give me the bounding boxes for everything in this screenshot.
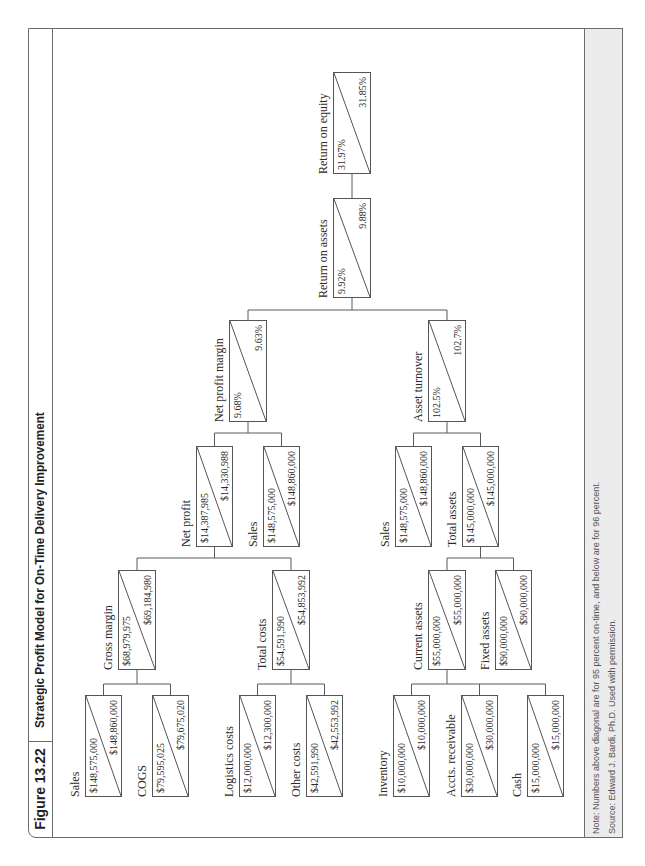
node-label-other-costs: Other costs [289,743,303,797]
value-96-percent: $148,860,000 [108,700,119,755]
node-label-inventory: Inventory [376,750,390,797]
value-95-percent: 9.68% [232,392,243,418]
value-96-percent: $55,000,000 [452,575,463,625]
footer-source: Source: Edward J. Bardi, Ph.D. Used with… [607,619,618,834]
node-label-return-on-equity: Return on equity [316,93,330,174]
node-label-sales-profit: Sales [246,522,260,547]
value-95-percent: 31.97% [336,139,347,170]
node-label-asset-turnover: Asset turnover [411,352,425,422]
value-96-percent: $54,853,992 [296,575,307,625]
value-95-percent: $145,000,000 [465,488,476,543]
value-95-percent: $68,979,975 [121,616,132,666]
node-label-accts-receivable: Accts. receivable [444,714,458,797]
value-95-percent: $15,000,000 [530,743,541,793]
value-95-percent: $12,000,000 [242,743,253,793]
node-return-on-equity: 31.97% 31.85% [333,72,371,174]
value-96-percent: 31.85% [357,77,368,108]
node-net-profit-margin: 9.68% 9.63% [229,320,267,422]
node-total-assets: $145,000,000 $145,000,000 [462,446,499,547]
value-95-percent: $55,000,000 [431,616,442,666]
node-cash: $15,000,000 $15,000,000 [527,695,564,797]
page: Figure 13.22 Strategic Profit Model for … [0,0,645,866]
value-95-percent: 102.5% [431,387,442,418]
value-95-percent: $79,595,025 [155,743,166,793]
value-96-percent: $42,553,992 [329,700,340,750]
value-96-percent: $30,000,000 [484,700,495,750]
node-label-net-profit-margin: Net profit margin [212,338,226,422]
value-96-percent: $69,184,980 [142,575,153,625]
value-95-percent: $10,000,000 [396,743,407,793]
node-net-profit: $14,387,985 $14,330,988 [196,446,233,547]
value-95-percent: $148,575,000 [88,738,99,793]
value-95-percent: 9.92% [336,268,347,294]
node-label-logistics-costs: Logistics costs [222,726,236,797]
node-logistics-costs: $12,000,000 $12,300,000 [239,695,276,797]
value-96-percent: $14,330,988 [219,451,230,501]
node-label-sales-assets: Sales [378,522,392,547]
rotated-figure: Figure 13.22 Strategic Profit Model for … [0,0,645,866]
node-label-return-on-assets: Return on assets [316,219,330,298]
node-total-costs: $54,591,990 $54,853,992 [272,570,310,670]
value-96-percent: $148,860,000 [286,451,297,506]
value-96-percent: $79,675,020 [175,700,186,750]
node-current-assets: $55,000,000 $55,000,000 [428,570,466,670]
value-96-percent: $148,860,000 [418,451,429,506]
node-accts-receivable: $30,000,000 $30,000,000 [461,695,498,797]
node-asset-turnover: 102.5% 102.7% [428,320,466,422]
value-96-percent: 9.88% [357,203,368,229]
value-95-percent: $42,591,990 [309,743,320,793]
value-95-percent: $148,575,000 [266,488,277,543]
value-96-percent: $12,300,000 [262,700,273,750]
node-label-total-costs: Total costs [255,619,269,671]
node-other-costs: $42,591,990 $42,553,992 [306,695,343,797]
node-cogs: $79,595,025 $79,675,020 [152,695,189,797]
value-96-percent: $145,000,000 [485,451,496,506]
value-95-percent: $54,591,990 [275,616,286,666]
value-96-percent: 102.7% [452,325,463,356]
node-label-current-assets: Current assets [411,602,425,670]
value-96-percent: $15,000,000 [550,700,561,750]
value-96-percent: $10,000,000 [416,700,427,750]
value-96-percent: $90,000,000 [518,575,529,625]
value-95-percent: $148,575,000 [398,488,409,543]
value-95-percent: $30,000,000 [464,743,475,793]
value-96-percent: 9.63% [253,325,264,351]
node-label-sales: Sales [68,772,82,797]
node-label-total-assets: Total assets [445,492,459,547]
node-label-net-profit: Net profit [179,500,193,547]
node-label-cogs: COGS [135,765,149,797]
node-label-cash: Cash [510,773,524,797]
node-return-on-assets: 9.92% 9.88% [333,198,371,298]
node-sales: $148,575,000 $148,860,000 [85,695,122,797]
node-fixed-assets: $90,000,000 $90,000,000 [495,570,532,670]
node-sales-assets: $148,575,000 $148,860,000 [395,446,432,547]
node-label-fixed-assets: Fixed assets [478,612,492,670]
node-gross-margin: $68,979,975 $69,184,980 [118,570,156,670]
node-label-gross-margin: Gross margin [101,605,115,670]
footer-note: Note: Numbers above diagonal are for 95 … [591,482,602,834]
node-inventory: $10,000,000 $10,000,000 [393,695,430,797]
node-sales-profit: $148,575,000 $148,860,000 [263,446,300,547]
value-95-percent: $90,000,000 [498,616,509,666]
value-95-percent: $14,387,985 [199,493,210,543]
